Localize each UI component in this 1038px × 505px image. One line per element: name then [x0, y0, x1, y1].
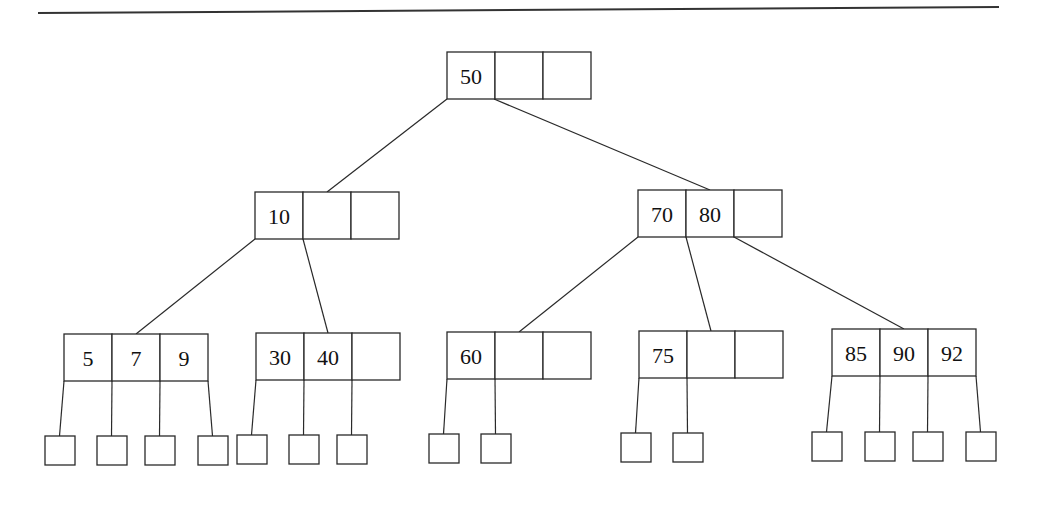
leaf-box — [913, 432, 943, 461]
key-value: 50 — [460, 64, 482, 89]
key-cell — [734, 190, 782, 237]
key-value: 30 — [269, 345, 291, 370]
key-value: 60 — [460, 344, 482, 369]
leaf-pointer-edge — [976, 376, 981, 432]
key-value: 90 — [893, 341, 915, 366]
leaf-pointer-edge — [495, 379, 496, 434]
leaf-nodes — [45, 432, 996, 465]
leaf-pointer-edge — [60, 381, 65, 436]
leaf-box — [673, 433, 703, 462]
edge-n70_80-to-n60 — [519, 237, 638, 332]
leaf-pointer-edge — [928, 376, 929, 432]
key-value: 10 — [268, 204, 290, 229]
key-value: 5 — [83, 346, 94, 371]
leaf-box — [237, 435, 267, 464]
leaf-box — [621, 433, 651, 462]
leaf-pointer-edge — [687, 378, 688, 433]
leaf-box — [865, 432, 895, 461]
key-cell — [351, 192, 399, 239]
leaf-box — [145, 436, 175, 465]
leaf-box — [337, 435, 367, 464]
edge-n10-to-n5_7_9 — [136, 239, 255, 334]
leaf-box — [289, 435, 319, 464]
key-cell — [495, 52, 543, 99]
tree-node-n5_7_9: 579 — [64, 334, 208, 381]
leaf-pointer-edge — [252, 380, 257, 435]
key-cell — [543, 332, 591, 379]
edge-n10-to-n30_40 — [303, 239, 328, 333]
b-tree-diagram: 5010708057930406075859092 — [0, 0, 1038, 505]
tree-node-n70_80: 7080 — [638, 190, 782, 237]
leaf-box — [812, 432, 842, 461]
leaf-pointer-edges — [60, 376, 981, 436]
tree-nodes: 5010708057930406075859092 — [64, 52, 976, 381]
key-value: 40 — [317, 345, 339, 370]
key-value: 70 — [651, 202, 673, 227]
tree-node-n85_90_92: 859092 — [832, 329, 976, 376]
tree-node-root: 50 — [447, 52, 591, 99]
leaf-box — [481, 434, 511, 463]
key-value: 80 — [699, 202, 721, 227]
leaf-box — [97, 436, 127, 465]
key-value: 75 — [652, 343, 674, 368]
key-cell — [303, 192, 351, 239]
edge-root-to-n10 — [327, 99, 447, 192]
leaf-pointer-edge — [444, 379, 448, 434]
key-cell — [543, 52, 591, 99]
key-value: 9 — [179, 346, 190, 371]
key-value: 7 — [131, 346, 142, 371]
edge-n70_80-to-n85_90_92 — [734, 237, 904, 329]
top-horizontal-rule — [38, 7, 999, 13]
leaf-pointer-edge — [827, 376, 833, 432]
tree-node-n30_40: 3040 — [256, 333, 400, 380]
leaf-pointer-edge — [304, 380, 305, 435]
leaf-pointer-edge — [208, 381, 213, 436]
key-cell — [687, 331, 735, 378]
leaf-box — [429, 434, 459, 463]
tree-node-n60: 60 — [447, 332, 591, 379]
leaf-pointer-edge — [880, 376, 881, 432]
leaf-box — [966, 432, 996, 461]
key-cell — [735, 331, 783, 378]
leaf-pointer-edge — [636, 378, 640, 433]
tree-node-n10: 10 — [255, 192, 399, 239]
tree-edges — [136, 99, 904, 334]
edge-root-to-n70_80 — [494, 99, 710, 190]
key-value: 92 — [941, 341, 963, 366]
leaf-pointer-edge — [160, 381, 161, 436]
edge-n70_80-to-n75 — [686, 237, 711, 331]
key-cell — [352, 333, 400, 380]
key-cell — [495, 332, 543, 379]
key-value: 85 — [845, 341, 867, 366]
leaf-box — [198, 436, 228, 465]
leaf-pointer-edge — [352, 380, 353, 435]
leaf-box — [45, 436, 75, 465]
leaf-pointer-edge — [112, 381, 113, 436]
tree-node-n75: 75 — [639, 331, 783, 378]
